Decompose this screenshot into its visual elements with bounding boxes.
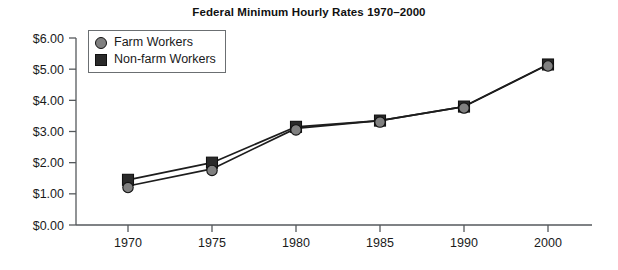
x-axis-tick-labels: 197019751980198519902000 — [114, 236, 562, 250]
legend-label-non-farm-workers: Non-farm Workers — [114, 53, 216, 66]
x-axis-tick-label: 2000 — [534, 236, 562, 250]
data-point-marker-farm-workers — [543, 61, 553, 71]
x-axis-tick-label: 1985 — [366, 236, 394, 250]
legend-circle-marker-icon — [95, 37, 107, 49]
x-axis-tick-marks — [128, 225, 548, 232]
data-point-marker-farm-workers — [123, 182, 133, 192]
y-axis-tick-label: $5.00 — [33, 63, 64, 77]
legend-label-farm-workers: Farm Workers — [114, 36, 193, 49]
legend-square-marker-icon — [95, 54, 107, 66]
series-markers — [123, 59, 554, 193]
legend-item-farm-workers: Farm Workers — [95, 34, 216, 51]
y-axis-tick-label: $4.00 — [33, 94, 64, 108]
x-axis-tick-label: 1970 — [114, 236, 142, 250]
y-axis-tick-label: $6.00 — [33, 32, 64, 46]
series-lines — [128, 64, 548, 186]
y-axis-tick-label: $2.00 — [33, 156, 64, 170]
y-axis-tick-label: $1.00 — [33, 187, 64, 201]
data-point-marker-farm-workers — [291, 125, 301, 135]
y-axis-tick-label: $3.00 — [33, 125, 64, 139]
y-axis-tick-labels: $0.00$1.00$2.00$3.00$4.00$5.00$6.00 — [33, 32, 64, 233]
x-axis-tick-label: 1980 — [282, 236, 310, 250]
data-point-marker-farm-workers — [207, 165, 217, 175]
series-line-non-farm-workers — [128, 64, 548, 179]
x-axis-tick-label: 1990 — [450, 236, 478, 250]
y-axis-tick-marks — [69, 38, 76, 225]
legend-item-non-farm-workers: Non-farm Workers — [95, 51, 216, 68]
data-point-marker-farm-workers — [459, 103, 469, 113]
x-axis-tick-label: 1975 — [198, 236, 226, 250]
chart-container: Federal Minimum Hourly Rates 1970–2000 $… — [0, 0, 618, 270]
data-point-marker-farm-workers — [375, 117, 385, 127]
y-axis-tick-label: $0.00 — [33, 219, 64, 233]
chart-legend: Farm Workers Non-farm Workers — [88, 30, 226, 73]
